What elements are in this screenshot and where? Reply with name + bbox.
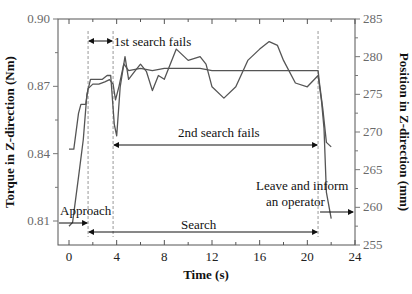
annotation-leave-line1: Leave and inform [256, 178, 348, 193]
y2-axis-label: Position in Z-direction (mm) [397, 53, 412, 211]
chart: 048121620240.810.840.870.902552602652702… [0, 0, 412, 294]
y-tick-label: 0.87 [27, 78, 50, 93]
y-tick-label: 0.90 [27, 11, 50, 26]
x-tick-label: 8 [161, 249, 168, 264]
y2-tick-label: 265 [363, 162, 383, 177]
y-tick-label: 0.84 [27, 146, 50, 161]
y2-tick-label: 270 [363, 124, 383, 139]
x-tick-label: 20 [301, 249, 314, 264]
y2-tick-label: 275 [363, 86, 383, 101]
y2-tick-label: 285 [363, 11, 383, 26]
x-axis-label: Time (s) [183, 267, 229, 282]
x-tick-label: 0 [66, 249, 73, 264]
x-tick-label: 12 [206, 249, 219, 264]
annotation-1st-search-fails: 1st search fails [114, 34, 191, 49]
annotation-search: Search [181, 217, 217, 232]
y-axis-label: Torque in Z-direction (Nm) [2, 56, 17, 208]
y2-tick-label: 255 [363, 237, 383, 252]
y2-tick-label: 280 [363, 49, 383, 64]
annotation-approach: Approach [60, 203, 112, 218]
x-tick-label: 24 [349, 249, 363, 264]
annotation-2nd-search-fails: 2nd search fails [178, 125, 260, 140]
x-tick-label: 4 [113, 249, 120, 264]
y2-tick-label: 260 [363, 199, 383, 214]
x-tick-label: 16 [253, 249, 267, 264]
y-tick-label: 0.81 [27, 213, 50, 228]
annotation-leave-line2: an operator [266, 194, 326, 209]
